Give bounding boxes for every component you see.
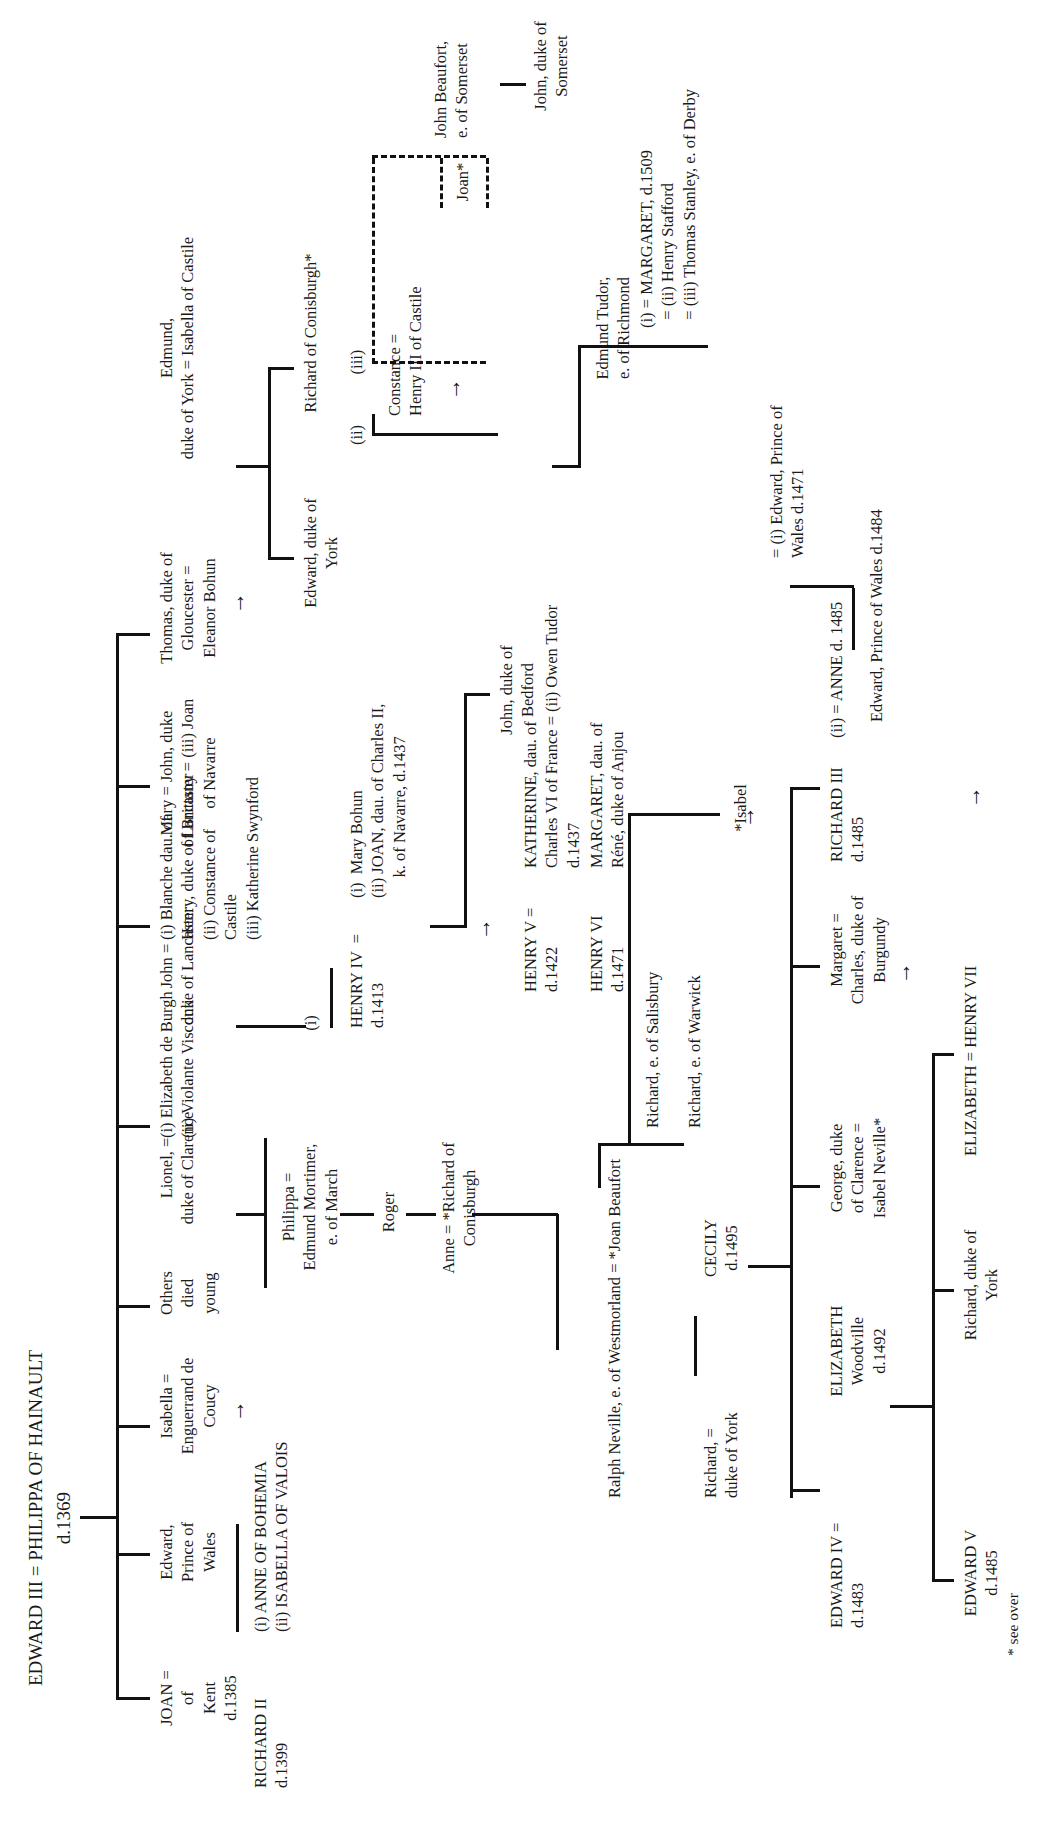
node-edward-prince-of-wales: Edward, Prince of Wales bbox=[156, 1472, 220, 1632]
connector-beaufort-dashed-mid bbox=[440, 158, 443, 208]
connector-richmond-descent bbox=[578, 345, 708, 348]
connector-york-children-bus bbox=[268, 370, 271, 560]
node-edward-duke-of-york: Edward, duke of York bbox=[300, 468, 343, 638]
connector-salisbury-warwick bbox=[628, 816, 631, 936]
connector-beaufort-dashed-bottom bbox=[486, 158, 489, 208]
chart-title-date: d.1369 bbox=[50, 1308, 78, 1728]
connector-drop-edward-iv bbox=[790, 1489, 820, 1492]
connector-richard3-anne-descent bbox=[790, 585, 854, 588]
arrow-burgundy-continues: → bbox=[892, 962, 914, 984]
arrow-clarence-continues: → bbox=[736, 806, 758, 828]
node-thomas-gloucester: Thomas, duke of Gloucester = Eleanor Boh… bbox=[156, 498, 220, 718]
node-anne-mortimer: Anne = *Richard of Conisburgh bbox=[438, 1108, 481, 1308]
node-edward-v: EDWARD V d.1485 bbox=[960, 1488, 1003, 1658]
connector-beaufort-descent bbox=[500, 83, 526, 86]
connector-drop-richard-iii bbox=[790, 787, 820, 790]
connector-drop-margaret-burgundy bbox=[790, 965, 820, 968]
connector-title-stem bbox=[80, 1516, 118, 1519]
connector-york-cecily-marriage bbox=[694, 1316, 697, 1376]
connector-richard-york-bar bbox=[556, 1214, 559, 1350]
connector-philippa-bar bbox=[264, 1138, 267, 1288]
arrow-tudor-continues: → bbox=[962, 786, 984, 808]
connector-drop-lionel bbox=[116, 1305, 150, 1308]
rotated-page-wrapper: EDWARD III = PHILIPPA OF HAINAULT d.1369… bbox=[0, 0, 1040, 1828]
connector-drop-thomas bbox=[116, 785, 150, 788]
node-richard-duke-of-york-2: Richard, duke of York bbox=[960, 1190, 1003, 1380]
node-margaret-beaufort-marriages: (i) = MARGARET, d.1509 = (ii) Henry Staf… bbox=[636, 0, 700, 328]
connector-mortimer-descent bbox=[340, 1213, 374, 1216]
connector-beaufort-dashed-left bbox=[372, 361, 486, 364]
connector-henry4-bar bbox=[330, 968, 333, 1028]
node-anne-neville-marriage: (ii) = ANNE d. 1485 bbox=[826, 478, 847, 738]
connector-drop-george-clarence bbox=[790, 1185, 820, 1188]
marker-ii: (ii) bbox=[346, 410, 367, 460]
arrow-henry4-line-continues: → bbox=[472, 918, 494, 940]
connector-drop-richard-conisburgh bbox=[268, 367, 294, 370]
arrow-castile-continues: → bbox=[442, 378, 464, 400]
connector-gen1-bus bbox=[116, 636, 119, 1700]
node-john-duke-of-somerset: John, duke of Somerset bbox=[530, 0, 573, 166]
marker-gaunt-i: (i) bbox=[300, 988, 321, 1058]
connector-neville-descent bbox=[598, 1143, 684, 1146]
connector-warwick-descent bbox=[628, 813, 720, 816]
connector-york-descent bbox=[236, 465, 270, 468]
node-constance-castile: Constance = Henry III of Castile bbox=[384, 156, 427, 416]
node-margaret-burgundy: Margaret = Charles, duke of Burgundy bbox=[826, 850, 890, 1050]
connector-edward-iv-children-bus bbox=[932, 1056, 935, 1582]
node-edmund-york: Edmund, duke of York = Isabella of Casti… bbox=[156, 198, 199, 498]
connector-neville-marriage bbox=[598, 1146, 601, 1188]
node-henry-vi-wife: MARGARET, dau. of Réné, duke of Anjou bbox=[586, 568, 629, 868]
connector-anne-descent bbox=[472, 1213, 558, 1216]
node-richard-of-conisburgh: Richard of Conisburgh* bbox=[300, 208, 321, 458]
node-katherine-valois: KATHERINE, dau. of Charles VI of France … bbox=[520, 408, 584, 868]
connector-lionel-descent bbox=[236, 1213, 266, 1216]
node-george-clarence: George, duke of Clarence = Isabel Nevill… bbox=[826, 1068, 890, 1268]
connector-drop-edward-v bbox=[932, 1579, 954, 1582]
node-edward-pow-1484: Edward, Prince of Wales d.1484 bbox=[866, 322, 887, 722]
connector-york-children-bus bbox=[790, 790, 793, 1498]
marker-iii: (iii) bbox=[346, 334, 367, 390]
connector-tudor-bus bbox=[578, 348, 581, 468]
node-roger-mortimer: Roger bbox=[378, 1162, 399, 1262]
footnote-see-over: * see over bbox=[1004, 1593, 1022, 1656]
connector-joan-edward-marriage bbox=[236, 1524, 239, 1632]
connector-edward-iv-children-stem bbox=[890, 1405, 934, 1408]
connector-drop-mary bbox=[116, 925, 150, 928]
connector-tudor-stem bbox=[552, 465, 580, 468]
connector-drop-others bbox=[116, 1425, 150, 1428]
node-joan-of-kent: JOAN = of Kent d.1385 bbox=[156, 1608, 242, 1788]
node-henry-iv-wives: (i) Mary Bohun (ii) JOAN, dau. of Charle… bbox=[346, 478, 410, 898]
connector-edward-pow-1484-bar bbox=[852, 588, 855, 650]
chart-title: EDWARD III = PHILIPPA OF HAINAULT bbox=[22, 1308, 50, 1728]
arrow-gloucester-continues: → bbox=[226, 592, 248, 614]
connector-drop-elizabeth bbox=[932, 1053, 954, 1056]
connector-henry4-children-stem bbox=[430, 925, 466, 928]
connector-drop-john bbox=[116, 1125, 150, 1128]
node-elizabeth-woodville: ELIZABETH Woodville d.1492 bbox=[826, 1256, 890, 1446]
node-edmund-tudor-richmond: Edmund Tudor, e. of Richmond bbox=[592, 218, 635, 438]
connector-beaufort-dashed-top bbox=[372, 158, 375, 364]
family-tree-sheet: EDWARD III = PHILIPPA OF HAINAULT d.1369… bbox=[0, 0, 1040, 1828]
node-philippa-mortimer: Philippa = Edmund Mortimer, e. of March bbox=[278, 1102, 342, 1312]
connector-neville-children bbox=[628, 936, 631, 1146]
node-elizabeth-henry-vii: ELIZABETH = HENRY VII bbox=[960, 836, 981, 1156]
connector-york-children-stem bbox=[748, 1265, 792, 1268]
connector-roger-descent bbox=[406, 1213, 436, 1216]
node-cecily-neville: CECILY d.1495 bbox=[700, 1168, 743, 1328]
connector-gaunt-descent bbox=[236, 1025, 306, 1028]
connector-drop-isabella bbox=[116, 1553, 150, 1556]
connector-drop-john-bedford bbox=[464, 693, 490, 696]
connector-constance-line bbox=[372, 433, 498, 436]
connector-henry4-children-bus bbox=[464, 696, 467, 928]
node-richard-salisbury: Richard, e. of Salisbury bbox=[642, 878, 663, 1128]
connector-drop-edmund bbox=[116, 633, 150, 636]
arrow-coucy-continues: → bbox=[226, 1400, 248, 1422]
node-richard-ii-wives: (i) ANNE OF BOHEMIA (ii) ISABELLA OF VAL… bbox=[250, 1302, 293, 1632]
connector-drop-richard-york-dk bbox=[932, 1289, 954, 1292]
node-richard-warwick: Richard, e. of Warwick bbox=[684, 878, 705, 1128]
node-edward-pow-1471: = (i) Edward, Prince of Wales d.1471 bbox=[766, 278, 809, 558]
connector-drop-joan bbox=[116, 1697, 150, 1700]
node-john-beaufort-somerset: John Beaufort, e. of Somerset bbox=[430, 0, 473, 138]
node-joan-star: Joan* bbox=[452, 132, 473, 232]
connector-constance-tick bbox=[372, 414, 375, 436]
